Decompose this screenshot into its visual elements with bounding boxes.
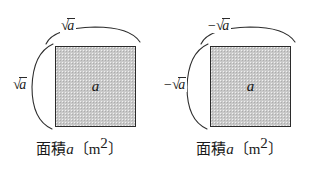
radical-expression: √a bbox=[13, 77, 27, 92]
square-area-variable: a bbox=[55, 79, 136, 94]
caption-variable: a bbox=[226, 141, 234, 157]
square-area-variable: a bbox=[210, 79, 291, 94]
radicand-value: a bbox=[67, 18, 75, 33]
radicand-value: a bbox=[19, 77, 27, 92]
caption-variable: a bbox=[66, 141, 74, 157]
top-side-length-label: √a bbox=[60, 18, 76, 33]
caption-area-word: 面積 bbox=[36, 140, 66, 158]
radical-expression: −√a bbox=[164, 77, 186, 92]
caption-unit: m bbox=[89, 141, 101, 157]
caption-unit-exponent: 2 bbox=[100, 135, 108, 151]
caption-bracket-open: 〔 bbox=[74, 141, 89, 157]
radicand-value: a bbox=[178, 77, 186, 92]
caption-unit: m bbox=[249, 141, 261, 157]
caption-bracket-close: 〕 bbox=[108, 141, 123, 157]
caption-area-word: 面積 bbox=[196, 140, 226, 158]
area-square-left: a bbox=[55, 46, 136, 127]
diagram-panel-left: a √a √a 面積a〔m2〕 bbox=[0, 0, 159, 179]
caption-bracket-open: 〔 bbox=[234, 141, 249, 157]
left-side-length-label: −√a bbox=[163, 77, 187, 92]
caption-bracket-close: 〕 bbox=[268, 141, 283, 157]
caption-unit-exponent: 2 bbox=[260, 135, 268, 151]
minus-sign: − bbox=[164, 77, 172, 92]
minus-sign: − bbox=[208, 18, 216, 33]
top-side-length-label: −√a bbox=[207, 18, 231, 33]
left-arc bbox=[187, 44, 208, 129]
radicand-value: a bbox=[222, 18, 230, 33]
figure-root: a √a √a 面積a〔m2〕 a −√a bbox=[0, 0, 319, 179]
panel-caption: 面積a〔m2〕 bbox=[0, 136, 159, 157]
left-arc bbox=[32, 44, 53, 129]
panel-caption: 面積a〔m2〕 bbox=[160, 136, 319, 157]
radical-expression: −√a bbox=[208, 18, 230, 33]
left-side-length-label: √a bbox=[12, 77, 28, 92]
radical-expression: √a bbox=[61, 18, 75, 33]
diagram-panel-right: a −√a −√a 面積a〔m2〕 bbox=[160, 0, 319, 179]
area-square-right: a bbox=[210, 46, 291, 127]
